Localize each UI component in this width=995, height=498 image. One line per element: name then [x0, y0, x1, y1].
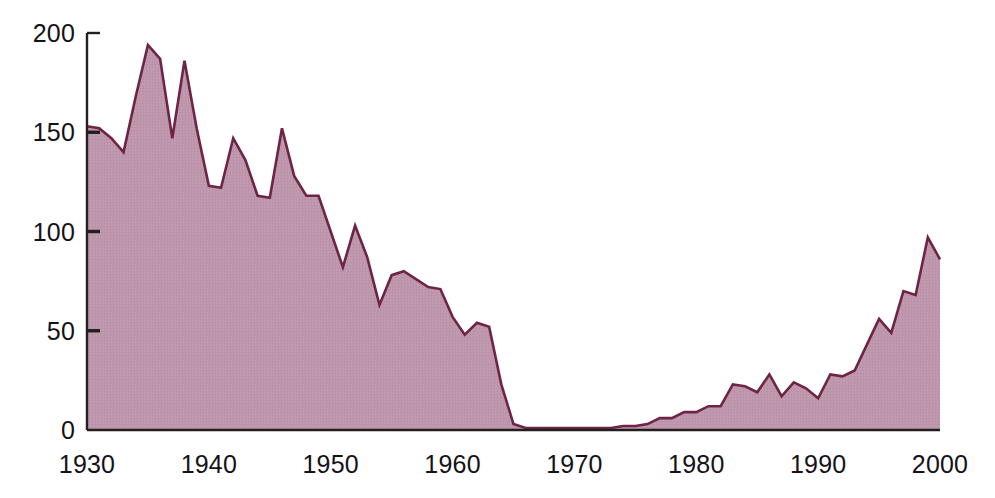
y-tick-label: 100	[33, 219, 75, 244]
plot-area	[87, 45, 940, 430]
y-tick-label: 150	[33, 120, 75, 145]
x-tick-label: 1960	[424, 452, 480, 477]
series-area-fill	[87, 45, 940, 430]
x-tick-label: 1980	[668, 452, 724, 477]
y-tick-label: 50	[47, 318, 75, 343]
x-tick-label: 1930	[59, 452, 115, 477]
chart-canvas	[0, 0, 995, 498]
x-tick-label: 1950	[302, 452, 358, 477]
area-chart: 050100150200 193019401950196019701980199…	[0, 0, 995, 498]
y-tick-label: 0	[61, 418, 75, 443]
x-tick-label: 1970	[546, 452, 602, 477]
x-tick-label: 1940	[181, 452, 237, 477]
y-tick-label: 200	[33, 21, 75, 46]
x-tick-label: 1990	[790, 452, 846, 477]
x-tick-label: 2000	[912, 452, 968, 477]
